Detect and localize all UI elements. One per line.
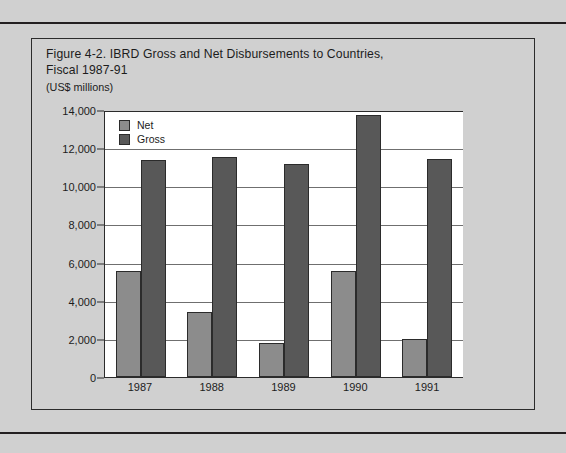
bar-gross-1989 — [284, 164, 309, 377]
figure-title: Figure 4-2. IBRD Gross and Net Disbursem… — [46, 47, 516, 78]
bar-gross-1988 — [212, 157, 237, 377]
legend-item-net: Net — [119, 120, 165, 131]
y-axis: 14,00012,00010,0008,0006,0004,0002,0000 — [46, 111, 104, 378]
legend-item-label: Net — [137, 120, 153, 131]
figure-caption: Figure 4-2. IBRD Gross and Net Disbursem… — [46, 47, 516, 95]
bar-group — [391, 111, 463, 377]
y-axis-tick-mark — [97, 339, 104, 340]
plot-area: NetGross — [104, 111, 463, 378]
bar-net-1989 — [259, 343, 284, 377]
y-axis-tick-mark — [97, 149, 104, 150]
x-axis-tick-label: 1988 — [176, 381, 248, 393]
bar-net-1988 — [187, 312, 212, 377]
x-axis-tick-label: 1990 — [319, 381, 391, 393]
bar-net-1987 — [116, 271, 141, 377]
x-axis: 19871988198919901991 — [104, 381, 463, 393]
x-axis-tick-label: 1987 — [104, 381, 176, 393]
y-axis-tick-label: 14,000 — [62, 105, 96, 117]
y-axis-tick-mark — [97, 187, 104, 188]
y-axis-tick-mark — [97, 378, 104, 379]
bar-group — [320, 111, 392, 377]
bar-gross-1990 — [356, 115, 381, 377]
bar-net-1990 — [331, 271, 356, 377]
bar-group — [177, 111, 249, 377]
top-divider-rule — [0, 22, 566, 24]
bottom-divider-rule — [0, 432, 566, 434]
y-axis-tick-label: 0 — [90, 372, 96, 384]
bar-groups — [105, 111, 463, 377]
y-axis-tick-label: 2,000 — [68, 334, 96, 346]
y-axis-tick-mark — [97, 225, 104, 226]
bar-group — [248, 111, 320, 377]
bar-net-1991 — [402, 339, 427, 377]
x-axis-tick-label: 1989 — [248, 381, 320, 393]
bar-gross-1987 — [141, 160, 166, 377]
y-axis-tick-mark — [97, 111, 104, 112]
y-axis-tick-label: 4,000 — [68, 296, 96, 308]
legend-item-label: Gross — [137, 134, 165, 145]
y-axis-tick-label: 10,000 — [62, 181, 96, 193]
chart-plot-wrapper: 14,00012,00010,0008,0006,0004,0002,0000 … — [46, 111, 522, 401]
y-axis-tick-label: 8,000 — [68, 219, 96, 231]
bar-gross-1991 — [427, 159, 452, 377]
bar-group — [105, 111, 177, 377]
x-axis-tick-label: 1991 — [391, 381, 463, 393]
y-axis-tick-mark — [97, 263, 104, 264]
chart-legend: NetGross — [119, 120, 165, 145]
y-axis-tick-label: 12,000 — [62, 143, 96, 155]
y-axis-tick-label: 6,000 — [68, 258, 96, 270]
legend-swatch-icon — [119, 120, 130, 131]
figure-card: Figure 4-2. IBRD Gross and Net Disbursem… — [31, 38, 535, 410]
figure-subtitle: (US$ millions) — [46, 80, 516, 95]
legend-item-gross: Gross — [119, 134, 165, 145]
y-axis-tick-mark — [97, 301, 104, 302]
legend-swatch-icon — [119, 134, 130, 145]
